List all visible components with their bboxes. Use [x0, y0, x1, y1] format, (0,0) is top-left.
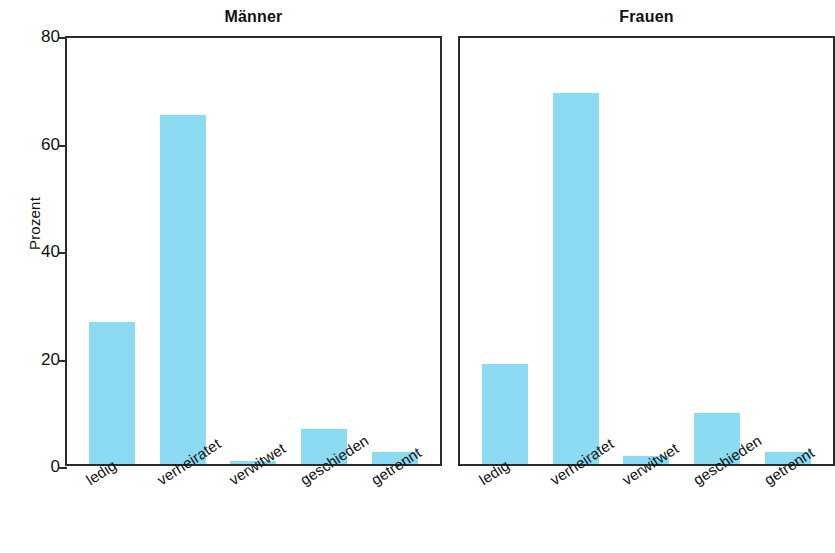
bar-slot: [289, 38, 360, 464]
y-tick-label: 0: [26, 458, 60, 475]
bar-slot: [218, 38, 289, 464]
plot-area-maenner: [67, 38, 440, 464]
x-axis-labels-maenner: ledigverheiratetverwitwetgeschiedengetre…: [65, 470, 442, 553]
y-tick-label: 40: [26, 243, 60, 260]
bar-slot: [359, 38, 430, 464]
bar-slot: [541, 38, 612, 464]
plot-area-frauen: [460, 38, 833, 464]
y-tick-label: 60: [26, 135, 60, 152]
bar-slot: [682, 38, 753, 464]
x-axis-labels-frauen: ledigverheiratetverwitwetgeschiedengetre…: [458, 470, 835, 553]
bar-slot: [752, 38, 823, 464]
bar-slot: [77, 38, 148, 464]
panel-maenner: Männer: [65, 36, 442, 466]
y-tick-mark: [58, 252, 67, 254]
y-axis-ticks: 020406080: [22, 0, 60, 553]
bar-slot: [148, 38, 219, 464]
y-tick-mark: [58, 37, 67, 39]
y-tick-mark: [58, 145, 67, 147]
panel-frauen: Frauen: [458, 36, 835, 466]
y-tick-mark: [58, 467, 67, 469]
panel-title-maenner: Männer: [67, 8, 440, 26]
y-tick-label: 80: [26, 28, 60, 45]
bar-slot: [470, 38, 541, 464]
panel-title-frauen: Frauen: [460, 8, 833, 26]
y-tick-label: 20: [26, 350, 60, 367]
bar-slot: [611, 38, 682, 464]
bar-maenner-ledig[interactable]: [89, 322, 135, 464]
bar-frauen-ledig[interactable]: [482, 364, 528, 464]
bar-frauen-verheiratet[interactable]: [553, 93, 599, 464]
y-tick-mark: [58, 360, 67, 362]
bar-maenner-verheiratet[interactable]: [160, 115, 206, 464]
